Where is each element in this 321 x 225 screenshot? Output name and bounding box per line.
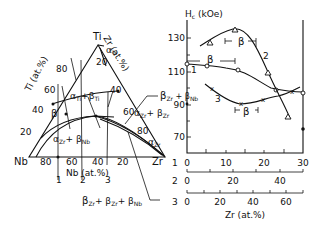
svg-text:80: 80 [137, 126, 149, 136]
label-alpha-beta-zr: αZr+ βZr [134, 108, 170, 119]
label-beta: β [51, 108, 57, 119]
svg-text:80: 80 [40, 157, 52, 167]
label-three-phase: βZr+ βZr+ βNb [82, 195, 142, 207]
composition-label-1: 1 [56, 175, 62, 185]
svg-text:40: 40 [92, 157, 104, 167]
svg-text:20: 20 [117, 157, 129, 167]
chart-ylabel: Hc (kOe) [185, 9, 223, 20]
svg-text:40: 40 [32, 105, 44, 115]
nb-ticks: 80 60 40 20 [40, 157, 129, 167]
svg-text:40: 40 [274, 176, 286, 186]
alpha-zr-beta-zr-band [95, 116, 165, 157]
svg-text:60: 60 [123, 107, 135, 117]
svg-text:70: 70 [174, 132, 186, 142]
vertex-ti: Ti [92, 31, 102, 42]
x-axis-2-line [187, 169, 303, 172]
svg-text:x: x [290, 88, 294, 96]
chart-frame [187, 20, 303, 153]
composition-label-3: 3 [105, 175, 111, 185]
svg-text:60: 60 [280, 197, 292, 207]
svg-text:20: 20 [227, 176, 239, 186]
svg-text:x: x [210, 85, 214, 93]
beta-label-curve-2: β [238, 36, 244, 47]
beta-label-curve-1: β [207, 54, 213, 65]
svg-text:130: 130 [168, 33, 185, 43]
vertex-nb: Nb [14, 156, 28, 167]
composition-line-3 [107, 92, 108, 165]
x-axis-3-name: 3 [172, 197, 178, 207]
x-axis-2-labels: 0 20 40 [184, 176, 286, 186]
svg-text:0: 0 [184, 176, 190, 186]
svg-text:90: 90 [174, 100, 186, 110]
x-axis-3-line [187, 190, 303, 193]
svg-text:x: x [261, 96, 265, 104]
svg-text:30: 30 [297, 158, 309, 168]
svg-text:20: 20 [258, 158, 270, 168]
vertex-zr: Zr [152, 156, 164, 167]
label-alpha-beta-ti: αTi+βTi [70, 91, 100, 102]
x-axis-1-labels: 0 10 20 30 [184, 158, 309, 168]
beta-label-curve-3: β [243, 106, 249, 117]
nb-axis-label: Nb (at.%) [66, 168, 109, 178]
svg-text:10: 10 [220, 158, 232, 168]
curve-1-label: 1 [191, 65, 197, 75]
svg-text:40: 40 [247, 197, 259, 207]
y-axis-marker [186, 103, 189, 106]
phase-diagram-figure: Ti Nb Zr Ti (at.%) Zr (at.%) Nb (at.%) 8… [0, 0, 321, 225]
filled-data-point [301, 127, 305, 131]
x-axis-1-ticks [206, 149, 284, 153]
svg-text:60: 60 [44, 85, 56, 95]
composition-label-2: 2 [80, 175, 86, 185]
label-alpha-zr-beta-nb: αZr+ βNb [53, 134, 90, 145]
curve-2-label: 2 [263, 51, 269, 61]
svg-text:20: 20 [214, 197, 226, 207]
svg-text:80: 80 [56, 64, 68, 74]
y-ticks [187, 38, 191, 137]
svg-text:0: 0 [184, 197, 190, 207]
x-axis-3-labels: 0 20 40 60 [184, 197, 292, 207]
svg-text:60: 60 [66, 157, 78, 167]
y-tick-labels: 130 110 90 70 [168, 33, 185, 142]
svg-text:20: 20 [20, 127, 32, 137]
ti-ticks: 80 60 40 20 [20, 64, 68, 137]
composition-line-2 [81, 60, 82, 180]
x-axis-2-name: 2 [172, 176, 178, 186]
curve-1-markers [185, 62, 305, 95]
chart-xlabel: Zr (at.%) [225, 210, 265, 220]
svg-text:0: 0 [184, 158, 190, 168]
svg-text:110: 110 [168, 67, 185, 77]
curve-1 [187, 64, 303, 92]
hc-chart: Hc (kOe) 130 110 90 70 1 0 10 20 30 2 0 … [168, 9, 309, 220]
curve-3-label: 3 [215, 94, 221, 104]
ternary-diagram: Ti Nb Zr Ti (at.%) Zr (at.%) Nb (at.%) 8… [14, 31, 198, 207]
svg-text:40: 40 [110, 85, 122, 95]
x-axis-1-name: 1 [172, 158, 178, 168]
